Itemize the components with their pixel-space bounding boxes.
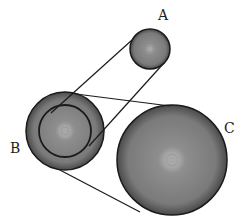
pulley-a-hub (147, 46, 153, 52)
pulley-c-hub (166, 154, 178, 166)
pulley-c-label: C (224, 120, 235, 136)
pulley-a (130, 29, 170, 69)
pulley-c (117, 105, 227, 215)
pulley-b-hub (61, 127, 69, 135)
pulleys-group (26, 29, 227, 215)
pulley-b (26, 92, 104, 170)
pulley-a-label: A (157, 7, 169, 23)
pulley-b-label: B (10, 140, 20, 156)
pulley-diagram: ABC (0, 0, 242, 223)
